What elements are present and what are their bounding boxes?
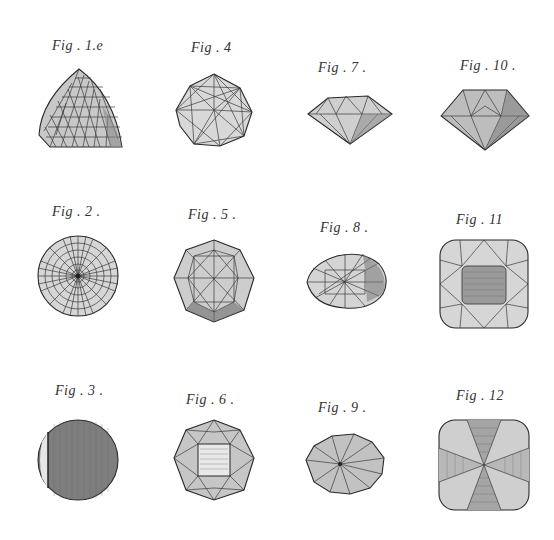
- oval-radial-pavilion-drawing: [304, 430, 388, 496]
- figure-2-label: Fig . 2 .: [52, 204, 100, 220]
- figure-7-label: Fig . 7 .: [318, 60, 366, 76]
- rose-cut-dome-drawing: [36, 65, 126, 150]
- octagonal-star-drawing-5: [172, 238, 256, 324]
- figure-11-label: Fig . 11: [456, 212, 503, 228]
- figure-3-label: Fig . 3 .: [55, 383, 103, 399]
- figure-8-label: Fig . 8 .: [320, 220, 368, 236]
- brilliant-profile-drawing: [306, 92, 394, 147]
- figure-1-label: Fig . 1.e: [52, 38, 103, 54]
- figure-10-label: Fig . 10 .: [460, 58, 516, 74]
- figure-4-label: Fig . 4: [191, 40, 231, 56]
- octagonal-square-table-drawing: [172, 418, 256, 502]
- octagonal-star-drawing: [174, 72, 254, 148]
- figure-12-label: Fig . 12: [456, 388, 504, 404]
- figure-9-label: Fig . 9 .: [318, 400, 366, 416]
- figure-5-label: Fig . 5 .: [188, 207, 236, 223]
- engraving-plate: Fig . 1.e Fig . 4 Fig . 7 .: [0, 0, 554, 540]
- round-table-flat-drawing: [36, 418, 120, 502]
- brilliant-profile-deep-drawing: [439, 88, 531, 150]
- cushion-table-drawing: [438, 238, 530, 330]
- round-radial-dome-drawing: [36, 234, 120, 318]
- cushion-radial-pavilion-drawing: [437, 418, 531, 512]
- figure-6-label: Fig . 6 .: [186, 392, 234, 408]
- oval-rose-cut-drawing: [305, 250, 391, 310]
